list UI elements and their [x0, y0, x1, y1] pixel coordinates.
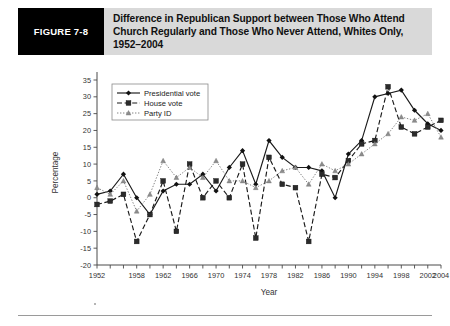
y-tick-label: 5	[87, 177, 91, 186]
marker-1	[306, 239, 311, 244]
page-speck	[94, 303, 96, 305]
marker-2	[108, 192, 113, 197]
figure-header: FIGURE 7-8 Difference in Republican Supp…	[18, 8, 432, 55]
y-tick-label: -10	[80, 227, 91, 236]
legend-marker-1	[126, 101, 131, 106]
y-tick-label: 25	[83, 109, 91, 118]
x-tick-label: 1970	[208, 271, 224, 280]
y-tick-label: 35	[83, 76, 91, 85]
marker-2	[240, 178, 245, 183]
y-tick-label: 10	[83, 160, 91, 169]
marker-1	[386, 84, 391, 89]
marker-0	[94, 192, 99, 197]
figure-number-box: FIGURE 7-8	[18, 8, 104, 55]
y-tick-label: -5	[84, 210, 91, 219]
x-tick-label: 1994	[367, 271, 383, 280]
marker-2	[253, 185, 258, 190]
marker-0	[438, 128, 443, 133]
marker-2	[425, 111, 430, 116]
marker-1	[95, 202, 100, 207]
x-tick-label: 1962	[155, 271, 171, 280]
marker-1	[425, 125, 430, 130]
x-tick-label: 1958	[128, 271, 144, 280]
line-chart: 35302520151050-5-10-15-20195219581962196…	[0, 58, 450, 306]
x-tick-label: 1978	[261, 271, 277, 280]
figure-number-label: FIGURE 7-8	[34, 26, 88, 37]
marker-2	[121, 178, 126, 183]
marker-1	[399, 125, 404, 130]
marker-1	[161, 179, 166, 184]
y-tick-label: 15	[83, 143, 91, 152]
marker-2	[214, 158, 219, 163]
marker-1	[121, 192, 126, 197]
marker-0	[306, 165, 311, 170]
legend-label-2: Party ID	[144, 109, 172, 118]
marker-1	[293, 185, 298, 190]
marker-1	[108, 199, 113, 204]
marker-0	[333, 195, 338, 200]
marker-1	[174, 229, 179, 234]
marker-2	[95, 185, 100, 190]
marker-1	[253, 236, 258, 241]
marker-2	[359, 152, 364, 157]
chart-plot-area: 35302520151050-5-10-15-20195219581962196…	[0, 58, 450, 306]
marker-1	[333, 175, 338, 180]
marker-2	[439, 135, 444, 140]
marker-2	[161, 158, 166, 163]
footer-rule	[18, 315, 432, 316]
marker-0	[174, 182, 179, 187]
marker-1	[267, 155, 272, 160]
y-tick-label: 30	[83, 92, 91, 101]
y-tick-label: -15	[80, 244, 91, 253]
x-tick-label: 1998	[393, 271, 409, 280]
marker-2	[399, 115, 404, 120]
legend-label-1: House vote	[144, 99, 182, 108]
x-tick-label: 1974	[234, 271, 250, 280]
y-tick-label: 0	[87, 193, 91, 202]
x-tick-label: 2004	[433, 271, 449, 280]
marker-2	[267, 178, 272, 183]
y-axis-label: Percentage	[51, 151, 60, 193]
marker-1	[412, 131, 417, 136]
figure-title: Difference in Republican Support between…	[113, 12, 426, 52]
marker-1	[280, 182, 285, 187]
x-tick-label: 1966	[181, 271, 197, 280]
marker-1	[134, 239, 139, 244]
marker-0	[372, 94, 377, 99]
marker-2	[148, 192, 153, 197]
figure-title-wrap: Difference in Republican Support between…	[104, 8, 432, 55]
marker-1	[359, 142, 364, 147]
marker-2	[386, 131, 391, 136]
marker-1	[439, 118, 444, 123]
y-tick-label: 20	[83, 126, 91, 135]
x-axis-label: Year	[261, 288, 278, 297]
x-tick-label: 1952	[89, 271, 105, 280]
x-tick-label: 1986	[314, 271, 330, 280]
marker-2	[320, 162, 325, 167]
marker-1	[214, 179, 219, 184]
x-tick-label: 1990	[340, 271, 356, 280]
marker-1	[320, 172, 325, 177]
x-tick-label: 1982	[287, 271, 303, 280]
legend-label-0: Presidential vote	[144, 89, 200, 98]
marker-2	[333, 168, 338, 173]
marker-1	[240, 162, 245, 167]
figure-container: FIGURE 7-8 Difference in Republican Supp…	[0, 0, 450, 326]
y-tick-label: -20	[80, 261, 91, 270]
marker-1	[227, 195, 232, 200]
marker-1	[148, 212, 153, 217]
marker-1	[200, 195, 205, 200]
